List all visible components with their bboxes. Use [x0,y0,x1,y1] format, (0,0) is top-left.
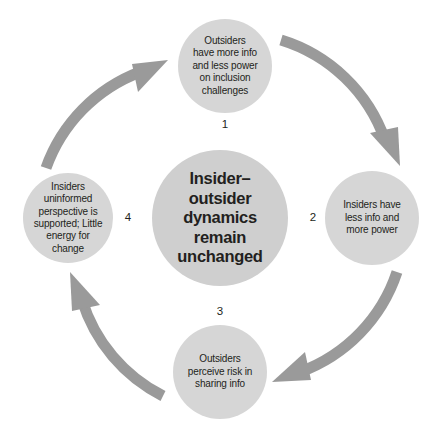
node-label-4: Insiders uninformed perspective is suppo… [18,174,118,262]
node-label-1: Outsiders have more info and less power … [173,22,277,110]
arrow-4-to-1 [46,60,168,168]
center-label: Insider– outsider dynamics remain unchan… [152,160,288,276]
node-label-2: Insiders have less info and more power [322,174,422,262]
node-label-3: Outsiders perceive risk in sharing info [169,328,271,416]
step-number-1: 1 [215,118,235,130]
arrow-1-to-2 [281,40,400,166]
step-number-4: 4 [118,211,138,223]
step-number-3: 3 [210,305,230,317]
cycle-diagram: Outsiders have more info and less power … [0,0,439,433]
arrow-3-to-4 [70,272,163,396]
step-number-2: 2 [303,211,323,223]
arrow-2-to-3 [272,272,397,382]
